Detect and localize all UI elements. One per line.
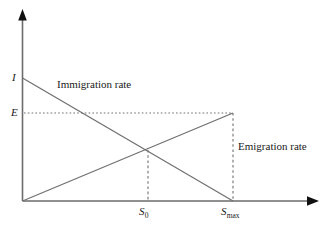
immigration-rate-line: [23, 78, 234, 201]
figure-container: I E Immigration rate Emigration rate S0 …: [0, 0, 325, 231]
axis-label-I: I: [12, 72, 16, 83]
y-axis: [18, 9, 27, 201]
immigration-rate-label: Immigration rate: [57, 79, 131, 90]
axis-label-E: E: [11, 107, 18, 118]
x-axis-arrowhead-icon: [307, 196, 319, 206]
emigration-rate-line: [23, 113, 234, 201]
x-tick-smax-subscript: max: [227, 211, 240, 220]
y-axis-arrowhead-icon: [18, 9, 27, 21]
x-tick-smax-base: S: [221, 205, 227, 217]
emigration-rate-label: Emigration rate: [238, 141, 307, 152]
x-axis: [23, 196, 320, 206]
x-tick-s0-subscript: 0: [145, 211, 149, 220]
immigration-emigration-chart: [0, 0, 325, 231]
x-tick-label-smax: Smax: [221, 206, 239, 217]
x-tick-s0-base: S: [139, 205, 145, 217]
x-tick-label-s0: S0: [139, 206, 148, 217]
